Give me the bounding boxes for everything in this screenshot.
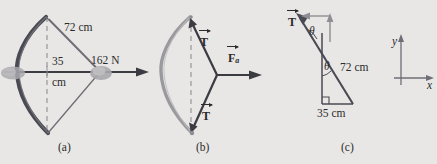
panel-a-tag: (a) [58,142,71,154]
vector-arrow-accent-t-lower: T [202,109,210,123]
right-angle-marker [322,97,329,104]
axis-y-arrowhead [398,34,404,42]
vector-arrow-accent-f: F [228,51,235,65]
label-draw-distance-unit: cm [52,77,66,89]
label-angle-theta-lower: θ [324,61,330,73]
vector-arrow-accent-t-c: T [288,15,296,29]
panel-b-tag: (b) [196,142,209,154]
label-tension-vector-c: T [288,16,296,28]
bow-tip-dot-lower [190,131,194,135]
vector-arrow-accent-t-upper: T [200,35,208,49]
label-draw-length-72cm: 72 cm [64,22,92,34]
label-axis-x: x [427,80,432,92]
nock-grip-inner [93,67,106,76]
label-applied-force-162n: 162 N [91,55,119,67]
tension-y-component-arrowhead [327,13,334,22]
bow-tip-dot-upper [189,15,193,19]
label-applied-force-vector-b: Fa [228,52,239,65]
label-tension-lower-b: T [202,110,210,122]
label-angle-theta-upper: θ [309,26,315,38]
panel-b-group [161,15,262,135]
label-axis-y: y [392,36,397,48]
label-applied-force-subscript: a [235,56,239,65]
arrow-head [136,68,149,77]
bow-limb-light [161,17,192,133]
label-base-35cm: 35 cm [317,108,345,120]
applied-force-arrowhead [249,71,262,80]
panel-c-group [296,13,434,105]
arrow-fletching-inner [2,68,16,77]
panel-a-group [1,17,149,133]
panel-c-tag: (c) [341,142,354,154]
label-tension-upper-b: T [200,36,208,48]
label-hypotenuse-72cm: 72 cm [340,62,368,74]
label-draw-distance-value: 35 [52,56,64,68]
